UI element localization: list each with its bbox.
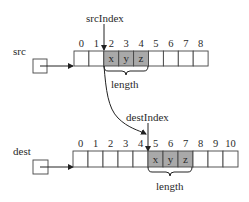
src-index: 6: [168, 38, 173, 49]
src-index: 0: [79, 38, 84, 49]
src-length-label: length: [111, 78, 139, 90]
src-cell: [193, 51, 208, 66]
array-copy-diagram: src srcIndex 012345678 xyz length dest d…: [0, 0, 249, 202]
src-label: src: [13, 45, 26, 57]
dest-cell: [88, 151, 103, 167]
dest-cell-value: y: [168, 153, 174, 165]
dest-index: 4: [138, 138, 144, 149]
dest-index: 10: [225, 138, 236, 149]
src-index: 2: [109, 38, 114, 49]
dest-cell-value: z: [183, 153, 188, 165]
dest-index: 3: [123, 138, 128, 149]
copy-curve-arrow: [104, 66, 146, 134]
dest-array: xyz: [73, 151, 238, 167]
dest-cell: [118, 151, 133, 167]
dest-length-label: length: [156, 180, 184, 192]
dest-index: 5: [153, 138, 158, 149]
src-index: 1: [94, 38, 99, 49]
src-cell: [178, 51, 193, 66]
dest-cell: [193, 151, 208, 167]
dest-cell-value: x: [153, 153, 159, 165]
dest-index: 8: [198, 138, 203, 149]
src-cell: [74, 51, 89, 66]
src-index-row: 012345678: [79, 38, 203, 49]
dest-cell: [208, 151, 223, 167]
src-array: xyz: [74, 51, 208, 66]
dest-index-label: destIndex: [126, 111, 169, 123]
dest-index: 2: [108, 138, 113, 149]
src-cell-value: x: [109, 52, 115, 64]
dest-length-brace: [148, 167, 192, 176]
src-cell-value: z: [139, 52, 144, 64]
dest-index: 1: [93, 138, 98, 149]
src-cell: [163, 51, 178, 66]
dest-cell: [223, 151, 238, 167]
src-index: 3: [124, 38, 129, 49]
src-length-brace: [104, 66, 148, 75]
dest-index: 9: [213, 138, 218, 149]
dest-cell: [103, 151, 118, 167]
src-cell-value: y: [123, 52, 129, 64]
src-cell: [149, 51, 164, 66]
src-index: 5: [153, 38, 158, 49]
src-index: 4: [138, 38, 144, 49]
src-index-label: srcIndex: [86, 12, 124, 24]
dest-label: dest: [13, 145, 31, 157]
dest-index-row: 012345678910: [78, 138, 236, 149]
src-index: 7: [183, 38, 188, 49]
src-cell: [89, 51, 104, 66]
dest-index: 6: [168, 138, 173, 149]
dest-cell: [133, 151, 148, 167]
dest-index: 7: [183, 138, 188, 149]
src-index: 8: [198, 38, 203, 49]
dest-cell: [73, 151, 88, 167]
dest-index: 0: [78, 138, 83, 149]
